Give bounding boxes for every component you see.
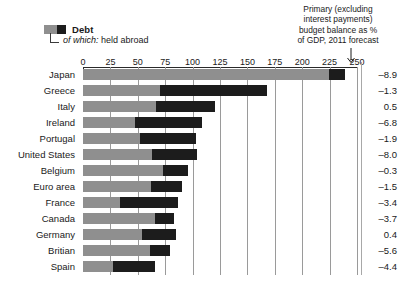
x-tick-label: 175 (267, 58, 282, 67)
legend-label-held-abroad-prefix: of which: (63, 35, 99, 45)
bar-row (83, 259, 357, 275)
budget-balance-value: –0.3 (379, 163, 398, 179)
bar-debt (83, 69, 345, 80)
legend-label-held-abroad-text: held abroad (101, 35, 149, 45)
category-label: Britian (48, 243, 75, 259)
x-tick-150: 150 (240, 58, 255, 67)
x-tick-50: 50 (133, 58, 143, 67)
chart-root: Debt of which: held abroad Primary (excl… (0, 0, 408, 283)
x-tick-25: 25 (105, 58, 115, 67)
legend-label-held-abroad: of which: held abroad (63, 35, 149, 46)
category-label: Euro area (33, 179, 75, 195)
category-label: Portugal (40, 131, 75, 147)
x-tick-75: 75 (160, 58, 170, 67)
category-label: Ireland (46, 115, 75, 131)
category-label: United States (18, 147, 75, 163)
bar-row (83, 83, 357, 99)
bar-row (83, 179, 357, 195)
category-label: Belgium (41, 163, 75, 179)
budget-balance-value: –3.4 (379, 195, 398, 211)
bar-held-abroad (160, 85, 267, 96)
budget-balance-value: –8.0 (379, 147, 398, 163)
chart-legend: Debt of which: held abroad (44, 23, 94, 35)
bar-held-abroad (120, 197, 178, 208)
x-tick-label: 200 (295, 58, 310, 67)
gridline (357, 67, 358, 275)
x-tick-label: 150 (240, 58, 255, 67)
bar-row (83, 99, 357, 115)
legend-label-debt: Debt (72, 24, 94, 35)
budget-balance-value: –6.8 (379, 115, 398, 131)
category-label: Canada (42, 211, 75, 227)
budget-balance-value: –8.9 (379, 67, 398, 83)
budget-balance-value: –1.9 (379, 131, 398, 147)
x-tick-175: 175 (267, 58, 282, 67)
x-tick-125: 125 (212, 58, 227, 67)
bar-row (83, 227, 357, 243)
value-column: –8.9–1.30.5–6.8–1.9–8.0–0.3–1.5–3.4–3.70… (361, 67, 405, 275)
budget-balance-value: –5.6 (379, 243, 398, 259)
budget-balance-value: –4.4 (379, 259, 398, 275)
category-label: Italy (58, 99, 75, 115)
bar-held-abroad (140, 133, 196, 144)
bar-row (83, 211, 357, 227)
bar-held-abroad (151, 181, 182, 192)
annotation-line-2: interest payments) (274, 14, 402, 24)
bar-held-abroad (150, 245, 170, 256)
category-label: Japan (49, 67, 75, 83)
category-label: Germany (36, 227, 75, 243)
bar-held-abroad (156, 101, 214, 112)
x-tick-label: 75 (160, 58, 170, 67)
category-label: Greece (44, 83, 75, 99)
x-tick-label: 125 (212, 58, 227, 67)
x-tick-200: 200 (295, 58, 310, 67)
category-axis-labels: JapanGreeceItalyIrelandPortugalUnited St… (0, 67, 79, 275)
bar-held-abroad (329, 69, 345, 80)
x-tick-100: 100 (185, 58, 200, 67)
category-label: Spain (51, 259, 75, 275)
annotation-line-1: Primary (excluding (274, 4, 402, 14)
x-tick-225: 225 (322, 58, 337, 67)
legend-entry-held-abroad: of which: held abroad (50, 35, 149, 46)
x-tick-250: 250 (349, 58, 364, 67)
bar-row (83, 67, 357, 83)
bar-row (83, 195, 357, 211)
plot-area (83, 67, 357, 275)
value-column-annotation: Primary (excluding interest payments) bu… (274, 4, 402, 46)
bar-row (83, 243, 357, 259)
bar-row (83, 147, 357, 163)
budget-balance-value: 0.5 (384, 99, 397, 115)
x-tick-label: 225 (322, 58, 337, 67)
bar-held-abroad (113, 261, 156, 272)
annotation-line-3: budget balance as % (274, 25, 402, 35)
annotation-line-4: of GDP, 2011 forecast (274, 35, 402, 45)
x-tick-label: 250 (349, 58, 364, 67)
bar-row (83, 115, 357, 131)
bar-row (83, 131, 357, 147)
x-tick-0: 0 (80, 58, 85, 67)
bar-row (83, 163, 357, 179)
x-tick-label: 50 (133, 58, 143, 67)
budget-balance-value: –3.7 (379, 211, 398, 227)
bar-held-abroad (135, 117, 203, 128)
legend-elbow-icon (50, 33, 59, 43)
x-tick-label: 100 (185, 58, 200, 67)
x-tick-label: 0 (80, 58, 85, 67)
bar-rows (83, 67, 357, 275)
bar-held-abroad (142, 229, 176, 240)
bar-held-abroad (163, 165, 188, 176)
category-label: France (45, 195, 75, 211)
x-tick-label: 25 (105, 58, 115, 67)
budget-balance-value: 0.4 (384, 227, 397, 243)
bar-held-abroad (152, 149, 197, 160)
budget-balance-value: –1.3 (379, 83, 398, 99)
bar-held-abroad (155, 213, 174, 224)
budget-balance-value: –1.5 (379, 179, 398, 195)
